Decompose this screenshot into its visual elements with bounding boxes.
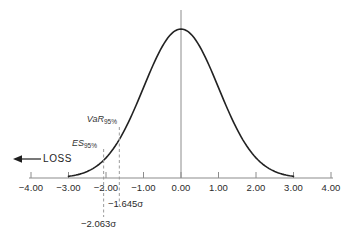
es-sigma-label: −2.063σ xyxy=(81,218,116,229)
x-tick-label: −1.00 xyxy=(124,182,164,193)
var-es-normal-distribution-chart: −4.00−3.00−2.00−1.000.001.002.003.004.00… xyxy=(0,0,356,239)
loss-arrow-head xyxy=(13,155,22,163)
x-tick-label: −2.00 xyxy=(86,182,126,193)
x-tick-label: 2.00 xyxy=(236,182,276,193)
loss-arrow xyxy=(13,155,41,163)
x-tick-label: 4.00 xyxy=(311,182,351,193)
var-label: VaR95% xyxy=(87,114,117,125)
es-label: ES95% xyxy=(72,138,97,149)
x-tick-label: −3.00 xyxy=(49,182,89,193)
x-tick-label: 3.00 xyxy=(274,182,314,193)
chart-canvas xyxy=(0,0,356,239)
var-label-subscript: 95% xyxy=(104,118,117,125)
x-tick-label: 0.00 xyxy=(161,182,201,193)
es-label-subscript: 95% xyxy=(84,142,97,149)
var-sigma-label: −1.645σ xyxy=(108,198,143,209)
x-tick-label: −4.00 xyxy=(11,182,51,193)
var-label-text: VaR xyxy=(87,114,104,124)
loss-label: LOSS xyxy=(43,153,72,164)
x-tick-label: 1.00 xyxy=(199,182,239,193)
es-label-text: ES xyxy=(72,138,84,148)
